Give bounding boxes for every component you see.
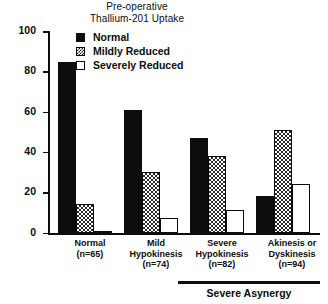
bar-normal-mildly-reduced — [76, 204, 94, 232]
y-tick-40: 40 — [43, 152, 48, 154]
severe-asynergy-bracket-line — [178, 281, 320, 284]
plot-area: 100 80 60 40 20 0 — [48, 31, 320, 234]
bar-severe-hypokinesis-normal — [190, 138, 208, 232]
y-tick-label-80: 80 — [24, 64, 36, 76]
y-tick-60: 60 — [43, 112, 48, 114]
y-tick-label-40: 40 — [24, 145, 36, 157]
y-tick-0: 0 — [43, 233, 48, 235]
y-tick-label-60: 60 — [24, 105, 36, 117]
y-tick-label-100: 100 — [18, 24, 36, 36]
x-axis-category-labels: Normal (n=65) Mild Hypokinesis (n=74) Se… — [48, 238, 320, 278]
chart-title-line-2: Thallium-201 Uptake — [62, 13, 212, 25]
thallium-uptake-bar-chart: Pre-operative Thallium-201 Uptake Normal… — [0, 0, 328, 304]
y-axis-line — [48, 31, 50, 234]
bar-normal-normal — [58, 62, 76, 233]
x-axis-line — [48, 233, 320, 235]
y-tick-label-0: 0 — [30, 226, 36, 238]
y-tick-label-20: 20 — [24, 185, 36, 197]
x-label-akinesis-or-dyskinesis-line-1: Akinesis or — [240, 238, 328, 249]
bar-akinesis-or-dyskinesis-severely-reduced — [292, 184, 310, 232]
chart-title: Pre-operative Thallium-201 Uptake — [62, 1, 212, 25]
x-label-akinesis-or-dyskinesis-line-2: Dyskinesis — [240, 249, 328, 260]
bar-normal-severely-reduced — [94, 231, 112, 233]
bar-akinesis-or-dyskinesis-mildly-reduced — [274, 130, 292, 233]
chart-title-line-1: Pre-operative — [62, 1, 212, 13]
x-label-akinesis-or-dyskinesis: Akinesis or Dyskinesis (n=94) — [240, 238, 328, 270]
y-tick-80: 80 — [43, 71, 48, 73]
bar-mild-hypokinesis-mildly-reduced — [142, 172, 160, 232]
bar-mild-hypokinesis-severely-reduced — [160, 218, 178, 232]
x-label-akinesis-or-dyskinesis-line-3: (n=94) — [240, 259, 328, 270]
y-tick-100: 100 — [43, 31, 48, 33]
y-tick-20: 20 — [43, 192, 48, 194]
bar-severe-hypokinesis-severely-reduced — [226, 210, 244, 232]
bar-akinesis-or-dyskinesis-normal — [256, 196, 274, 232]
bar-mild-hypokinesis-normal — [124, 110, 142, 233]
severe-asynergy-label: Severe Asynergy — [178, 287, 320, 299]
bar-severe-hypokinesis-mildly-reduced — [208, 156, 226, 232]
